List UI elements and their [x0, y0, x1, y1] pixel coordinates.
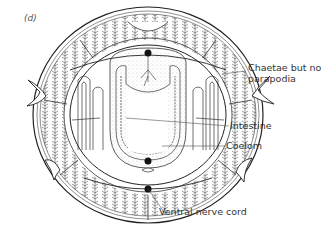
label-coelom: Coelom [226, 140, 262, 151]
label-chaetae: Chaetae but no parapodia [248, 62, 321, 84]
label-ventral-nerve-cord: Ventral nerve cord [159, 206, 247, 217]
label-chaetae-line1: Chaetae but no [248, 62, 321, 73]
dorsal-vessel-icon [145, 50, 152, 57]
nerve-cord-shape [142, 168, 154, 172]
intestine [110, 48, 186, 168]
label-chaetae-line2: parapodia [248, 73, 321, 84]
label-intestine: Intestine [230, 120, 272, 131]
panel-letter: (d) [24, 13, 37, 23]
ventral-vessel-icon [145, 158, 152, 165]
